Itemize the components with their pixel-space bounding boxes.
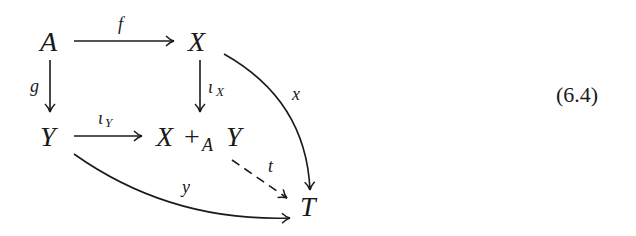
arrow-t-dashed — [232, 160, 287, 198]
equation-number: (6.4) — [556, 82, 598, 107]
svg-text:Y: Y — [105, 115, 114, 130]
svg-text:ι: ι — [98, 108, 103, 128]
label-f: f — [118, 14, 126, 34]
label-g: g — [30, 76, 39, 96]
commutative-diagram: A X Y X + A Y T f g ι X ι Y x y t (6.4) — [0, 0, 636, 236]
node-a: A — [38, 26, 58, 57]
node-pushout: X + A Y — [155, 121, 245, 155]
label-iota-x: ι X — [208, 77, 225, 99]
node-t: T — [300, 191, 318, 222]
svg-text:X: X — [215, 84, 225, 99]
label-t: t — [268, 156, 274, 176]
node-x: X — [187, 26, 206, 57]
svg-text:ι: ι — [208, 77, 213, 97]
pushout-sub: A — [201, 135, 214, 155]
label-x: x — [291, 84, 300, 104]
label-y: y — [180, 177, 190, 197]
node-y: Y — [40, 121, 59, 152]
pushout-plus: + — [184, 121, 200, 152]
pushout-y: Y — [226, 121, 245, 152]
pushout-x: X — [155, 121, 174, 152]
label-iota-y: ι Y — [98, 108, 114, 130]
